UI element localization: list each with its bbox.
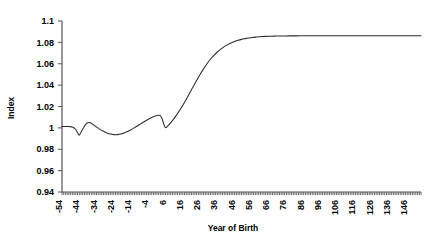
x-axis-tick-label: 16 [175,200,185,210]
x-axis-tick-label: 126 [365,200,375,215]
y-axis-tick-label: 0.94 [36,187,54,197]
x-axis-tick-label: -14 [123,200,133,213]
y-axis-tick-label: 1.04 [36,80,54,90]
x-axis-tick-label: 6 [158,200,168,205]
x-axis-tick-label: -4 [140,200,150,208]
x-axis-tick-label: -54 [54,200,64,213]
x-axis-tick-label: 36 [209,200,219,210]
line-chart: 1.11.081.061.041.0210.980.960.94 -54-44-… [0,0,429,249]
y-axis-tick-label: 0.98 [36,144,54,154]
x-axis-tick-label: 26 [192,200,202,210]
y-axis-tick-labels: 1.11.081.061.041.0210.980.960.94 [36,16,54,197]
x-axis-tick-label: 106 [330,200,340,215]
chart-container: 1.11.081.061.041.0210.980.960.94 -54-44-… [0,0,429,249]
y-axis-tick-label: 1.06 [36,59,54,69]
x-axis-tick-labels: -54-44-34-24-14-461626364656667686961061… [54,200,409,215]
y-axis-title: Index [6,97,16,119]
y-axis-tick-label: 0.96 [36,166,54,176]
x-axis-tick-label: -34 [89,200,99,213]
x-axis-tick-label: 146 [399,200,409,215]
x-axis-title: Year of Birth [208,223,259,233]
x-axis-tick-label: -24 [106,200,116,213]
x-axis-tick-label: 116 [347,200,357,215]
data-series-line [62,36,421,135]
x-axis-minor-ticks [62,192,421,195]
x-axis-tick-label: -44 [71,200,81,213]
y-axis-tick-label: 1 [49,123,54,133]
y-axis-tick-label: 1.08 [36,38,54,48]
x-axis-group: -54-44-34-24-14-461626364656667686961061… [54,192,421,215]
x-axis-tick-label: 76 [278,200,288,210]
y-axis-group: 1.11.081.061.041.0210.980.960.94 [36,16,62,197]
x-axis-tick-label: 136 [382,200,392,215]
x-axis-tick-label: 46 [227,200,237,210]
x-axis-tick-label: 56 [244,200,254,210]
x-axis-tick-label: 66 [261,200,271,210]
y-axis-tick-label: 1.1 [41,16,54,26]
x-axis-tick-label: 86 [296,200,306,210]
x-axis-tick-label: 96 [313,200,323,210]
y-axis-tick-label: 1.02 [36,102,54,112]
plot-area [62,36,421,135]
